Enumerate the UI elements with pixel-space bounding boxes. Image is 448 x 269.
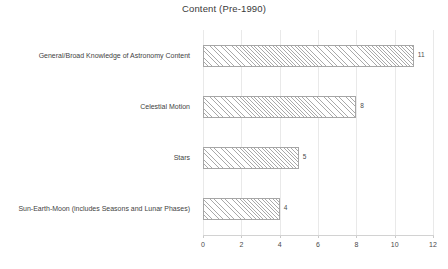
category-label: Celestial Motion	[0, 102, 190, 111]
bar[interactable]	[203, 198, 280, 220]
bars-layer: 11854	[203, 30, 433, 235]
category-axis-labels: General/Broad Knowledge of Astronomy Con…	[0, 30, 197, 235]
bar-value-label: 4	[284, 204, 288, 211]
bar[interactable]	[203, 147, 299, 169]
chart-title: Content (Pre-1990)	[0, 3, 448, 14]
x-tick-label: 4	[278, 241, 282, 248]
bar-group: 4	[203, 198, 433, 220]
x-tick-label: 0	[201, 241, 205, 248]
bar[interactable]	[203, 96, 356, 118]
bar-group: 5	[203, 147, 433, 169]
bar-group: 11	[203, 45, 433, 67]
x-axis-tick-labels: 024681012	[0, 241, 448, 255]
plot-area: 11854	[203, 30, 433, 235]
gridline	[433, 30, 434, 235]
bar[interactable]	[203, 45, 414, 67]
category-label: Sun-Earth-Moon (includes Seasons and Lun…	[0, 204, 190, 213]
x-tick-label: 6	[316, 241, 320, 248]
category-label: Stars	[0, 153, 190, 162]
x-tick-label: 10	[391, 241, 399, 248]
x-axis-line	[203, 235, 434, 236]
bar-value-label: 5	[303, 153, 307, 160]
bar-chart: Content (Pre-1990) General/Broad Knowled…	[0, 0, 448, 269]
category-label: General/Broad Knowledge of Astronomy Con…	[0, 51, 190, 60]
x-tick-label: 2	[239, 241, 243, 248]
x-tick-label: 12	[429, 241, 437, 248]
bar-value-label: 8	[360, 102, 364, 109]
x-tick-label: 8	[354, 241, 358, 248]
bar-group: 8	[203, 96, 433, 118]
bar-value-label: 11	[418, 51, 425, 58]
